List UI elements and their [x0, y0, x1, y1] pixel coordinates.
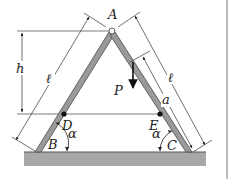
right-l-extension-bottom — [193, 140, 212, 152]
angle-left-label: α — [68, 126, 77, 141]
point-b-label: B — [47, 137, 58, 152]
left-l-label: ℓ — [46, 71, 52, 86]
ground — [24, 152, 206, 166]
point-c-label: C — [167, 138, 177, 153]
point-e — [157, 111, 162, 116]
pin-a — [109, 28, 115, 34]
a-label: a — [162, 92, 170, 107]
load-p-label: P — [113, 83, 123, 98]
a-frame-diagram: h ℓ ℓ a P A D E B α C α — [0, 0, 234, 179]
a-extension-top — [130, 51, 150, 62]
h-label: h — [16, 61, 24, 76]
right-l-label: ℓ — [168, 70, 174, 85]
point-a-label: A — [107, 7, 117, 22]
point-d — [61, 111, 66, 116]
angle-right-label: α — [152, 126, 161, 141]
left-l-extension-bottom — [12, 137, 35, 151]
